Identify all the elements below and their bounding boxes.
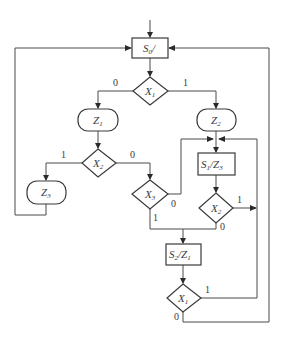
cond-output-z3: Z3 bbox=[27, 181, 66, 204]
arrow-down-icon bbox=[213, 103, 219, 109]
arrow-right-icon bbox=[250, 205, 257, 211]
branch-label: 0 bbox=[113, 77, 118, 88]
arrow-right-icon bbox=[207, 136, 214, 142]
arrow-down-icon bbox=[180, 278, 186, 284]
arrow-down-icon bbox=[147, 71, 153, 77]
decision-x2-right: X2 bbox=[199, 193, 233, 223]
branch-label: 0 bbox=[130, 149, 135, 160]
branch-label: 0 bbox=[220, 221, 225, 232]
decision-x3: X3 bbox=[132, 180, 168, 209]
branch-label: 1 bbox=[153, 212, 158, 223]
cond-output-z2: Z2 bbox=[197, 109, 236, 131]
arrow-right-icon bbox=[125, 45, 132, 51]
branch-label: 1 bbox=[61, 149, 66, 160]
arrow-down-icon bbox=[95, 103, 101, 109]
arrow-left-icon bbox=[168, 45, 175, 51]
arrow-down-icon bbox=[213, 187, 219, 193]
x2-0-to-x3 bbox=[116, 163, 150, 179]
arrow-left-icon bbox=[218, 136, 225, 142]
branch-label: 1 bbox=[205, 284, 210, 295]
x1-0-to-z1 bbox=[98, 91, 133, 108]
asm-chart: S0/ S1/Z3 S2/Z1 X1 X2 X3 X2 X1 Z1 Z2 bbox=[0, 0, 284, 341]
state-s1: S1/Z3 bbox=[198, 153, 235, 175]
decision-x1-bottom: X1 bbox=[167, 284, 201, 312]
decision-x2-left: X2 bbox=[82, 149, 116, 177]
state-s0: S0/ bbox=[132, 38, 168, 58]
cond-output-z1: Z1 bbox=[78, 109, 118, 131]
branch-label: 0 bbox=[174, 311, 179, 322]
branch-label: 1 bbox=[237, 194, 242, 205]
branch-label: 1 bbox=[183, 77, 188, 88]
arrow-down-icon bbox=[43, 175, 49, 181]
x1-1-to-z2 bbox=[168, 91, 216, 108]
branch-label: 0 bbox=[171, 198, 176, 209]
state-s2: S2/Z1 bbox=[166, 244, 201, 265]
arrow-down-icon bbox=[95, 143, 101, 149]
arrow-down-icon bbox=[147, 32, 153, 38]
arrow-down-icon bbox=[147, 174, 153, 180]
arrow-down-icon bbox=[213, 147, 219, 153]
arrow-down-icon bbox=[180, 238, 186, 244]
decision-x1-top: X1 bbox=[133, 77, 168, 105]
x2-1-to-z3 bbox=[46, 163, 82, 180]
